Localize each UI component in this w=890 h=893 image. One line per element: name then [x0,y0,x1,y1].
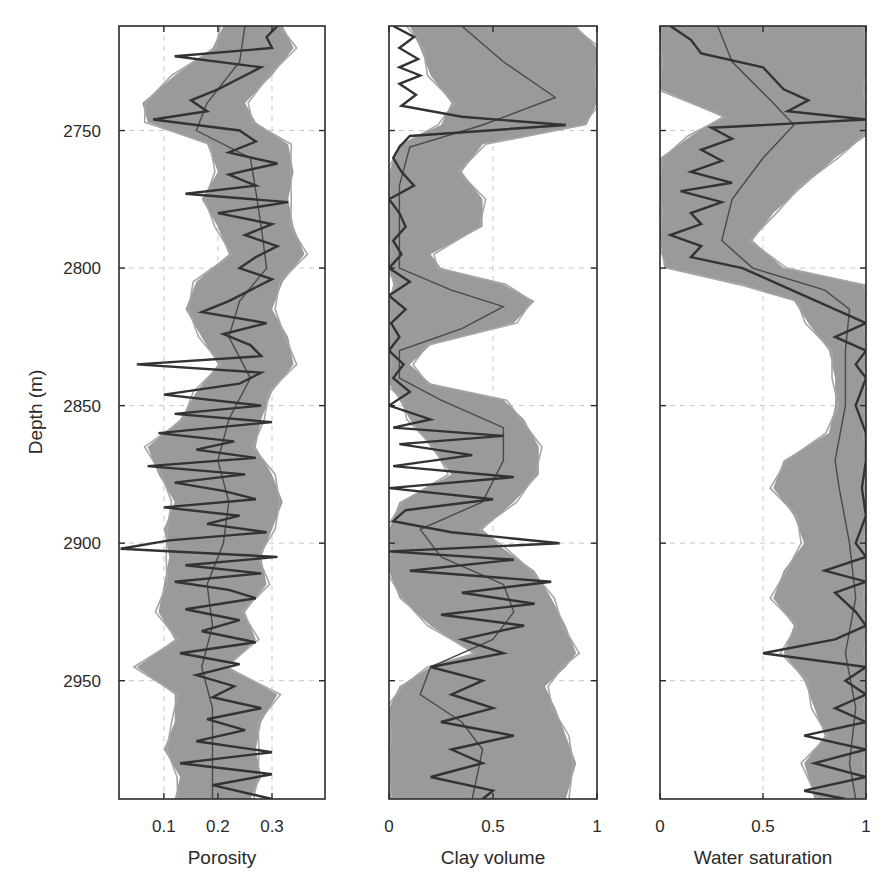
y-axis-title: Depth (m) [25,370,46,454]
x-tick-label: 1 [592,817,601,836]
porosity-axis-title: Porosity [188,847,257,868]
y-tick-label: 2950 [63,672,101,691]
x-tick-label: 0.5 [751,817,775,836]
x-tick-label: 0 [655,817,664,836]
water-saturation-track: 00.51 [655,26,870,836]
y-tick-label: 2900 [63,534,101,553]
plot-area [121,26,308,799]
y-tick-label: 2850 [63,397,101,416]
plot-area [657,26,869,799]
x-tick-label: 1 [861,817,870,836]
clay-volume-track: 00.51 [384,26,601,836]
x-tick-label: 0.3 [260,817,284,836]
x-tick-label: 0.5 [481,817,505,836]
y-tick-labels: 2750 2800 2850 2900 2950 [63,122,101,691]
well-log-figure: Depth (m) 2750 2800 2850 2900 2950 0.10.… [0,0,890,893]
ensemble-band [389,26,597,799]
x-tick-label: 0 [384,817,393,836]
y-tick-label: 2800 [63,259,101,278]
water-saturation-axis-title: Water saturation [694,847,833,868]
clay-volume-axis-title: Clay volume [441,847,546,868]
x-tick-label: 0.2 [206,817,230,836]
x-tick-label: 0.1 [152,817,176,836]
y-tick-label: 2750 [63,122,101,141]
plot-area [386,26,600,799]
porosity-track: 0.10.20.3 [119,26,325,836]
